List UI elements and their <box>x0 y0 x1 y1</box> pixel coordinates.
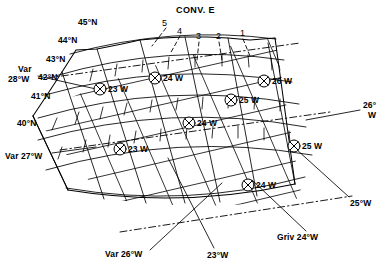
fix-marker <box>94 83 106 95</box>
fix-label-23w-lower: 23 W <box>128 145 148 155</box>
grid-number-1: 1 <box>240 29 245 39</box>
grid-meridian-0 <box>256 12 358 250</box>
isogonal-var-26w <box>120 196 352 232</box>
grid-meridian-1 <box>214 8 318 248</box>
grid-number-2: 2 <box>216 32 221 42</box>
fix-label-25w-upper: 25 W <box>239 96 259 106</box>
latitude-label-41n: 41°N <box>31 92 50 102</box>
longitude-label-25w: 25°W <box>350 199 371 209</box>
leader-4 <box>170 36 180 54</box>
grid-number-5: 5 <box>162 19 167 29</box>
leader-2 <box>219 42 222 60</box>
variation-label-27w: Var 27°W <box>5 152 42 162</box>
grid-meridian-4 <box>88 8 192 250</box>
grid-number-3: 3 <box>196 32 201 42</box>
leader-26w-right <box>306 110 360 120</box>
grivation-label: Griv 24°W <box>277 233 318 243</box>
leader-1 <box>243 39 250 56</box>
latitude-label-44n: 44°N <box>58 36 77 46</box>
fix-label-25w-lower: 25 W <box>302 142 322 152</box>
latitude-label-42n: 42°N <box>38 73 57 83</box>
longitude-label-26w-w: W <box>368 111 376 121</box>
latitude-label-40n: 40°N <box>17 119 36 129</box>
latitude-label-43n: 43°N <box>46 55 65 65</box>
variation-label-28w: 28°W <box>8 75 29 85</box>
chart-figure: CONV. E 45°N 44°N 43°N 42°N 41°N 40°N 5 … <box>0 0 388 273</box>
fix-label-24w-upper: 24 W <box>163 74 183 84</box>
grid-number-4: 4 <box>177 27 182 37</box>
fix-marker <box>242 179 254 191</box>
leader-23w-bottom <box>168 158 214 248</box>
variation-label-26w: Var 26°W <box>105 250 142 260</box>
leader-25w-right <box>296 149 349 197</box>
chart-border <box>33 37 295 198</box>
fix-marker <box>149 72 161 84</box>
chart-title: CONV. E <box>176 6 215 16</box>
fix-marker <box>288 140 300 152</box>
grid-meridian-5 <box>46 14 150 255</box>
fix-label-23w-upper: 23 W <box>108 85 128 95</box>
fix-label-24w-center: 24 W <box>197 119 217 129</box>
grid-meridian-3 <box>130 6 234 248</box>
fix-marker <box>114 143 126 155</box>
fix-label-26w: 26 W <box>272 77 292 87</box>
leader-3 <box>197 42 199 60</box>
fix-marker <box>225 94 237 106</box>
fix-label-24w-lower: 24 W <box>256 181 276 191</box>
latitude-label-45n: 45°N <box>78 18 97 28</box>
fix-marker <box>258 75 270 87</box>
fix-marker <box>183 117 195 129</box>
graticule-ticks <box>52 54 290 159</box>
longitude-label-23w: 23°W <box>207 251 228 261</box>
